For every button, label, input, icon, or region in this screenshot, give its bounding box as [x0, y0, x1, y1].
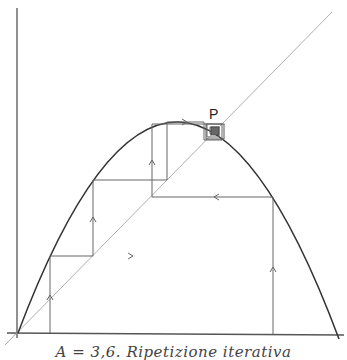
cobweb-diagram: P [0, 0, 347, 360]
cobweb-right [152, 124, 273, 334]
diagonal-line [5, 12, 332, 345]
direction-arrows [47, 119, 276, 300]
fixed-point-core [211, 127, 219, 135]
arrow-right-icon [128, 253, 133, 259]
point-p-label: P [209, 106, 218, 122]
cobweb-left [50, 122, 222, 333]
figure-caption: A = 3,6. Ripetizione iterativa [0, 343, 347, 360]
parabola-curve [18, 122, 339, 339]
x-axis [7, 333, 344, 335]
